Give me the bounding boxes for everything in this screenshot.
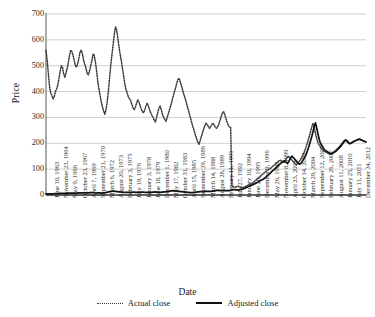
legend-label-actual-close: Actual close: [128, 298, 171, 308]
solid-line-swatch-icon: [196, 302, 222, 304]
legend-label-adjusted-close: Adjusted close: [227, 298, 278, 308]
legend-item-actual-close: Actual close: [97, 298, 171, 308]
chart-legend: Actual close Adjusted close: [0, 298, 375, 308]
chart-container: Price 0100200300400500600700 June 10, 19…: [0, 0, 375, 317]
series-line-adjusted-close: [46, 123, 366, 194]
x-axis-title: Date: [0, 287, 375, 297]
legend-item-adjusted-close: Adjusted close: [196, 298, 278, 308]
series-line-actual-close: [46, 27, 366, 188]
plot-area: [0, 0, 375, 317]
dotted-line-swatch-icon: [97, 303, 123, 304]
